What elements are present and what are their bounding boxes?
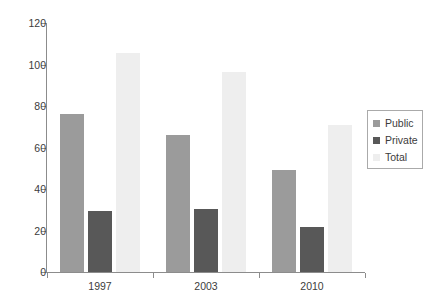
plot-area <box>47 23 365 272</box>
bar-chart: 020406080100120 199720032010 PublicPriva… <box>0 0 441 302</box>
x-axis-tick <box>259 273 260 278</box>
legend-label: Public <box>385 118 414 129</box>
x-axis-label-1997: 1997 <box>60 281 140 292</box>
x-axis-label-2010: 2010 <box>272 281 352 292</box>
legend-entry-private: Private <box>373 133 418 147</box>
legend-entry-total: Total <box>373 150 407 164</box>
y-axis-tick-label: 80 <box>12 101 46 112</box>
legend-label: Private <box>385 135 418 146</box>
y-axis-tick-label: 20 <box>12 226 46 237</box>
legend-entry-public: Public <box>373 116 414 130</box>
bar-private-2003 <box>194 209 218 272</box>
legend-swatch-icon <box>373 154 380 161</box>
x-axis-label-2003: 2003 <box>166 281 246 292</box>
y-axis-tick-label: 0 <box>12 267 46 278</box>
legend-swatch-icon <box>373 137 380 144</box>
x-axis-tick <box>47 273 48 278</box>
bar-total-1997 <box>116 53 140 272</box>
x-axis-line <box>46 272 365 273</box>
bar-public-1997 <box>60 114 84 272</box>
y-axis-tick-label: 120 <box>12 18 46 29</box>
bar-total-2003 <box>222 72 246 272</box>
legend-label: Total <box>385 152 407 163</box>
x-axis-tick <box>153 273 154 278</box>
y-axis-tick-label: 60 <box>12 143 46 154</box>
legend-swatch-icon <box>373 120 380 127</box>
y-axis-tick-label: 100 <box>12 60 46 71</box>
bar-total-2010 <box>328 125 352 272</box>
y-axis-tick-label: 40 <box>12 184 46 195</box>
bar-private-2010 <box>300 227 324 272</box>
bar-public-2003 <box>166 135 190 272</box>
bar-public-2010 <box>272 170 296 272</box>
x-axis-tick <box>365 273 366 278</box>
chart-legend: PublicPrivateTotal <box>367 110 423 169</box>
bar-private-1997 <box>88 211 112 272</box>
